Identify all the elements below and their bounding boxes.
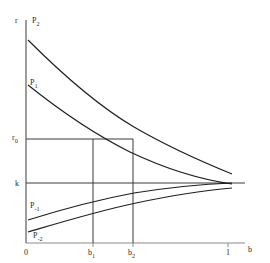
x-tick-label-one: 1 bbox=[226, 248, 230, 257]
curves-group bbox=[28, 40, 232, 232]
curve-labels-group: P2 P1 P-1 P-2 bbox=[30, 16, 43, 242]
curve-label-pm1-sub: -1 bbox=[34, 205, 39, 212]
x-axis-label: b bbox=[248, 245, 252, 254]
curve-p1 bbox=[28, 85, 232, 184]
curve-label-pm1: P-1 bbox=[30, 201, 40, 212]
y-tick-label-k: k bbox=[15, 179, 19, 188]
y-axis-label: r bbox=[15, 16, 18, 25]
axis-group bbox=[26, 20, 245, 243]
curve-label-pm2: P-2 bbox=[33, 231, 43, 242]
x-tick-b1-sub: 1 bbox=[92, 252, 95, 259]
x-tick-b2-sub: 2 bbox=[132, 252, 135, 259]
tick-marks-group bbox=[93, 243, 228, 247]
y-tick-label-r0: r0 bbox=[12, 133, 18, 144]
curve-pm1 bbox=[28, 183, 232, 220]
x-tick-label-b1: b1 bbox=[88, 248, 95, 259]
x-tick-label-b2: b2 bbox=[128, 248, 135, 259]
curve-pm2 bbox=[28, 188, 232, 232]
curve-label-p1-sub: 1 bbox=[34, 82, 37, 89]
figure-container: r b r0 k 0 b1 b2 1 P2 P1 P-1 P-2 bbox=[0, 0, 270, 263]
curve-label-p2-sub: 2 bbox=[36, 20, 39, 27]
plot-canvas: r b r0 k 0 b1 b2 1 P2 P1 P-1 P-2 bbox=[0, 0, 270, 263]
y-tick-r0-sub: 0 bbox=[15, 137, 18, 144]
curve-p2 bbox=[28, 40, 232, 174]
x-tick-labels: 0 b1 b2 1 bbox=[24, 248, 230, 259]
x-tick-label-zero: 0 bbox=[24, 248, 28, 257]
curve-label-pm2-sub: -2 bbox=[37, 235, 42, 242]
y-tick-labels: r0 k bbox=[12, 133, 19, 188]
curve-label-p2: P2 bbox=[32, 16, 40, 27]
